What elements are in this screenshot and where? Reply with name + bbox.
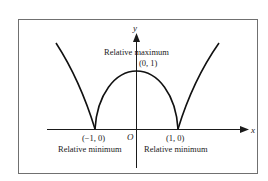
x-axis-arrow-icon xyxy=(240,126,249,133)
relative-minimum-right-label: Relative minimum xyxy=(144,144,208,154)
point-max-coord: (0, 1) xyxy=(139,58,158,68)
curve-right-branch xyxy=(178,43,219,129)
frame-border xyxy=(19,20,258,174)
function-graph: x y Relative maximum (0, 1) O (−1, 0) Re… xyxy=(0,0,268,181)
point-left-min-coord: (−1, 0) xyxy=(82,133,105,143)
curve-left-branch xyxy=(56,43,95,129)
point-right-min-coord: (1, 0) xyxy=(166,133,185,143)
relative-maximum-label: Relative maximum xyxy=(104,47,169,57)
y-axis-label: y xyxy=(132,23,137,33)
y-axis-arrow-icon xyxy=(133,33,140,42)
x-axis-label: x xyxy=(250,125,255,135)
origin-label: O xyxy=(127,132,134,142)
relative-minimum-left-label: Relative minimum xyxy=(58,144,122,154)
